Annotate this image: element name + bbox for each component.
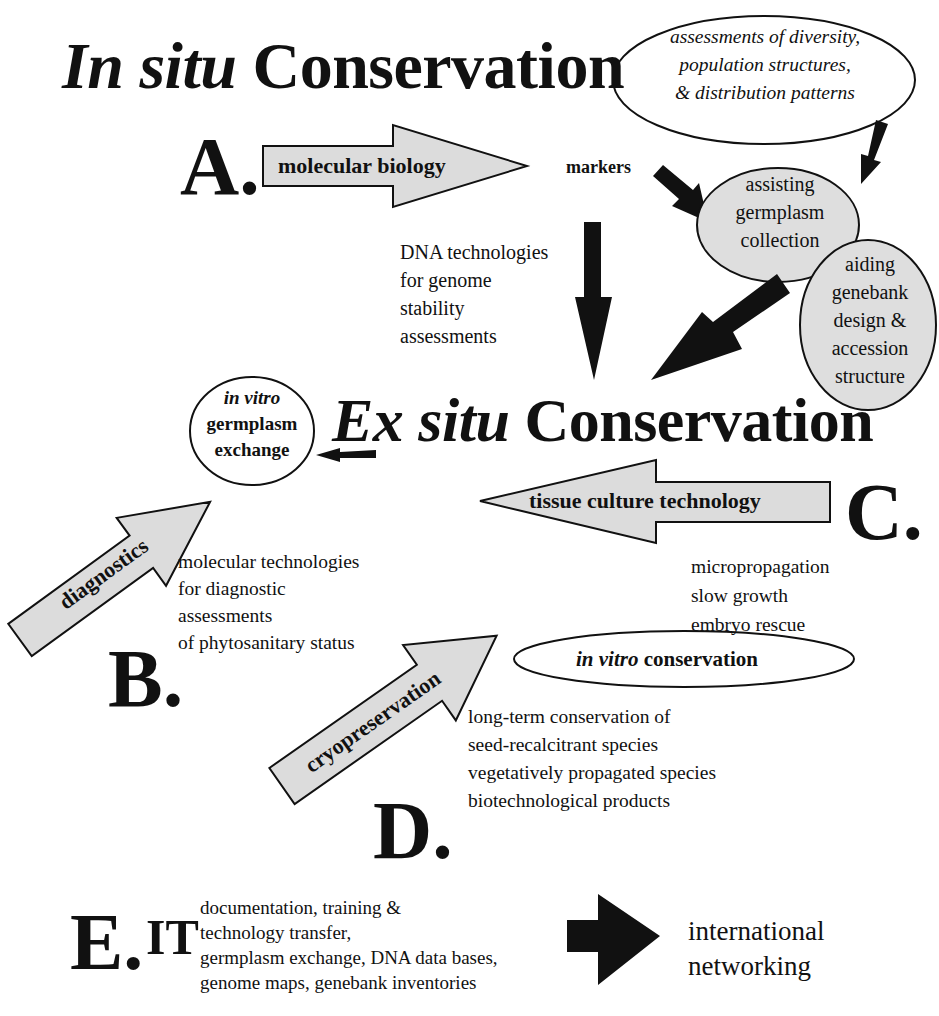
section-letter-d: D. [373,790,453,872]
section-letter-e: E. [70,902,143,982]
dna-line: assessments [400,322,548,350]
genebank-line: genebank [822,278,918,306]
it-line: germplasm exchange, DNA data bases, [200,945,498,970]
invitro-conservation-italic: in vitro [576,647,638,671]
tissue-culture-line: micropropagation [691,552,830,581]
section-letter-b: B. [108,638,183,720]
invitro-conservation-bubble: in vitro conservation [576,647,758,672]
exchange-line: germplasm [192,411,312,437]
cryopreservation-line: vegetatively propagated species [468,759,716,787]
genebank-line: design & [822,306,918,334]
ex-situ-title-italic: Ex situ [332,386,509,454]
it-text: documentation, training & technology tra… [200,895,498,995]
dna-technologies-text: DNA technologies for genome stability as… [400,238,548,350]
in-situ-title: In situ Conservation [62,28,624,104]
assessments-line: & distribution patterns [630,79,900,107]
exchange-bubble: in vitro germplasm exchange [192,385,312,463]
diagram-shapes [0,0,939,1016]
diagnostics-line: of phytosanitary status [178,629,359,656]
assessments-bubble: assessments of diversity, population str… [630,23,900,107]
genebank-line: accession [822,334,918,362]
molecular-biology-label: molecular biology [278,153,446,179]
cryopreservation-text: long-term conservation of seed-recalcitr… [468,703,716,815]
it-line: documentation, training & [200,895,498,920]
diagnostics-line: molecular technologies [178,548,359,575]
ex-situ-title-rest: Conservation [524,386,873,454]
networking-line: networking [688,949,824,984]
networking-line: international [688,914,824,949]
section-letter-c: C. [845,472,923,552]
dna-line: stability [400,294,548,322]
cryopreservation-line: biotechnological products [468,787,716,815]
dna-down-arrow [575,222,612,380]
diagnostics-text: molecular technologies for diagnostic as… [178,548,359,656]
assessments-line: population structures, [630,51,900,79]
markers-label: markers [566,157,631,178]
assessments-line: assessments of diversity, [630,23,900,51]
cryopreservation-line: seed-recalcitrant species [468,731,716,759]
in-situ-title-italic: In situ [62,29,236,102]
ex-situ-title: Ex situ Conservation [332,385,873,456]
dna-line: for genome [400,266,548,294]
conservation-diagram: In situ Conservation A. molecular biolog… [0,0,939,1016]
dna-line: DNA technologies [400,238,548,266]
cryopreservation-line: long-term conservation of [468,703,716,731]
collection-line: germplasm [720,198,840,226]
in-situ-title-rest: Conservation [252,29,624,102]
genebank-line: aiding [822,250,918,278]
collection-line: assisting [720,170,840,198]
exchange-line: exchange [192,437,312,463]
tissue-culture-line: slow growth [691,581,830,610]
exchange-line: in vitro [192,385,312,411]
section-letter-a: A. [180,126,260,208]
it-label: IT [146,912,199,962]
it-line: technology transfer, [200,920,498,945]
it-line: genome maps, genebank inventories [200,970,498,995]
diagnostics-line: for diagnostic [178,575,359,602]
collection-bubble: assisting germplasm collection [720,170,840,254]
collection-to-exsitu-arrow [651,274,790,380]
international-networking: international networking [688,914,824,984]
genebank-bubble: aiding genebank design & accession struc… [822,250,918,390]
tissue-culture-label: tissue culture technology [529,488,761,514]
assessments-to-collection-arrow [861,120,888,184]
it-to-networking-arrow [567,894,660,985]
tissue-culture-line: embryo rescue [691,610,830,639]
invitro-conservation-rest: conservation [644,647,758,671]
tissue-culture-text: micropropagation slow growth embryo resc… [691,552,830,639]
diagnostics-line: assessments [178,602,359,629]
